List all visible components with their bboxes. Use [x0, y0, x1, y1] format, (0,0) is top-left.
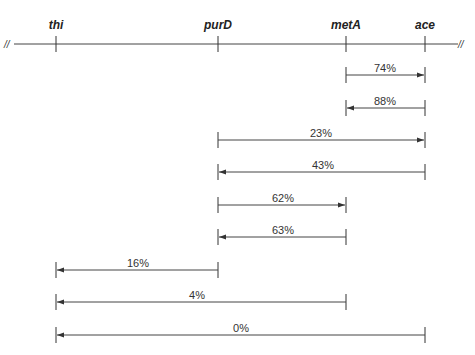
arrow-row-62: 62%: [218, 192, 346, 213]
percent-label: 43%: [312, 159, 334, 171]
break-mark-right: //: [457, 39, 465, 50]
gene-label-purD: purD: [203, 18, 232, 32]
percent-label: 23%: [310, 127, 332, 139]
chromosome-axis: // // thi purD metA ace: [3, 18, 465, 52]
genetic-map-diagram: // // thi purD metA ace 74% 88% 23% 4: [0, 0, 475, 355]
arrow-row-63: 63%: [218, 224, 346, 245]
arrow-row-0: 0%: [56, 322, 425, 343]
percent-label: 62%: [272, 192, 294, 204]
percent-label: 74%: [374, 62, 396, 74]
arrow-row-16: 16%: [56, 257, 218, 278]
percent-label: 0%: [233, 322, 249, 334]
arrow-row-43: 43%: [218, 159, 425, 180]
gene-label-thi: thi: [49, 18, 64, 32]
gene-label-metA: metA: [331, 18, 361, 32]
percent-label: 16%: [127, 257, 149, 269]
percent-label: 4%: [189, 289, 205, 301]
arrow-row-4: 4%: [56, 289, 346, 310]
gene-label-ace: ace: [415, 18, 435, 32]
percent-label: 63%: [272, 224, 294, 236]
break-mark-left: //: [3, 39, 11, 50]
arrow-row-88: 88%: [346, 95, 425, 116]
percent-label: 88%: [374, 95, 396, 107]
arrow-row-74: 74%: [346, 62, 425, 83]
arrow-row-23: 23%: [218, 127, 425, 148]
